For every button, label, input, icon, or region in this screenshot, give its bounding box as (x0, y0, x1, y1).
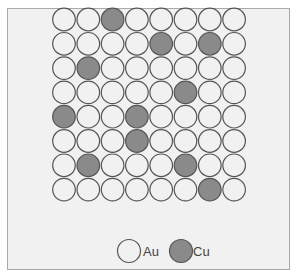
au-atom (223, 57, 246, 80)
legend-au-label: Au (143, 244, 159, 259)
au-atom (199, 81, 222, 104)
au-atom (77, 178, 100, 201)
cu-atom (174, 154, 197, 177)
au-atom (126, 178, 149, 201)
au-atom (53, 8, 76, 31)
au-atom (126, 57, 149, 80)
au-atom (101, 33, 124, 56)
cu-atom (174, 81, 197, 104)
au-atom (223, 81, 246, 104)
au-atom (174, 130, 197, 153)
au-atom (53, 81, 76, 104)
au-atom (174, 8, 197, 31)
au-atom (223, 130, 246, 153)
au-atom (199, 57, 222, 80)
cu-atom (77, 57, 100, 80)
atom-grid (53, 8, 246, 201)
au-atom (150, 105, 173, 128)
cu-atom (126, 130, 149, 153)
legend-cu-swatch (170, 240, 193, 263)
au-atom (223, 8, 246, 31)
au-atom (174, 105, 197, 128)
au-atom (101, 178, 124, 201)
au-atom (77, 8, 100, 31)
au-atom (77, 130, 100, 153)
cu-atom (53, 105, 76, 128)
au-atom (126, 81, 149, 104)
au-atom (150, 8, 173, 31)
au-atom (174, 33, 197, 56)
au-atom (223, 33, 246, 56)
cu-atom (199, 33, 222, 56)
legend-au-swatch (118, 240, 141, 263)
au-atom (150, 178, 173, 201)
au-atom (126, 154, 149, 177)
au-atom (199, 105, 222, 128)
au-atom (150, 81, 173, 104)
lattice-diagram: Au Cu (0, 0, 296, 279)
cu-atom (199, 178, 222, 201)
legend-cu-label: Cu (193, 244, 210, 259)
au-atom (101, 154, 124, 177)
au-atom (101, 130, 124, 153)
au-atom (53, 154, 76, 177)
au-atom (150, 130, 173, 153)
cu-atom (126, 105, 149, 128)
legend: Au Cu (118, 240, 210, 263)
au-atom (126, 8, 149, 31)
au-atom (223, 178, 246, 201)
au-atom (53, 178, 76, 201)
au-atom (223, 105, 246, 128)
au-atom (199, 154, 222, 177)
au-atom (174, 57, 197, 80)
au-atom (150, 154, 173, 177)
au-atom (77, 33, 100, 56)
au-atom (53, 33, 76, 56)
cu-atom (77, 154, 100, 177)
au-atom (199, 8, 222, 31)
au-atom (126, 33, 149, 56)
cu-atom (150, 33, 173, 56)
au-atom (223, 154, 246, 177)
au-atom (101, 105, 124, 128)
au-atom (199, 130, 222, 153)
cu-atom (101, 8, 124, 31)
au-atom (174, 178, 197, 201)
au-atom (150, 57, 173, 80)
au-atom (101, 81, 124, 104)
au-atom (101, 57, 124, 80)
au-atom (53, 57, 76, 80)
au-atom (77, 105, 100, 128)
au-atom (77, 81, 100, 104)
au-atom (53, 130, 76, 153)
